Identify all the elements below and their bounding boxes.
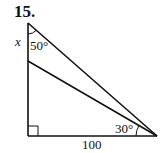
right-angle-marker (28, 126, 38, 136)
label-angle-50: 50° (30, 39, 48, 52)
angle-arc-30 (136, 126, 139, 137)
label-base-100: 100 (82, 138, 102, 151)
inner-segment (28, 61, 157, 136)
problem-number: 15. (14, 2, 35, 22)
label-angle-30: 30° (115, 122, 133, 135)
label-unknown-x: x (15, 35, 21, 48)
triangle-diagram (0, 0, 168, 153)
geometry-figure: 15. x 50° 30° 100 (0, 0, 168, 153)
angle-arc-50 (28, 30, 36, 34)
